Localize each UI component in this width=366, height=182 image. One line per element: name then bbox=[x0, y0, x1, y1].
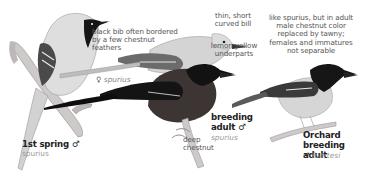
oriole-plate: black bib often bordered by a few chestn… bbox=[0, 0, 366, 182]
annotation-underparts: lemon yellow underparts bbox=[208, 42, 260, 58]
annotation-fuertesi: like spurius, but in adult male chestnut… bbox=[258, 14, 364, 55]
female-subspecies: spurius bbox=[104, 75, 131, 84]
female-symbol: ♀ bbox=[96, 75, 101, 84]
breeding-adult-male-subspecies: spurius bbox=[211, 134, 238, 142]
orchard-fuertesi-subspecies: fuertesi bbox=[312, 151, 340, 160]
orchard-fuertesi-subspecies-line: ♂ fuertesi bbox=[303, 152, 340, 160]
annotation-bill: thin, short curved bill bbox=[208, 12, 258, 28]
annotation-bib: black bib often bordered by a few chestn… bbox=[92, 28, 178, 53]
male-symbol: ♂ bbox=[303, 151, 310, 160]
first-spring-male-subspecies: spurius bbox=[22, 150, 49, 158]
female-label: ♀ spurius bbox=[96, 76, 131, 84]
first-spring-male-label: 1st spring ♂ bbox=[22, 139, 79, 149]
annotation-chestnut: deep chestnut bbox=[183, 136, 214, 152]
breeding-adult-male-label: breeding adult ♂ bbox=[211, 112, 253, 132]
